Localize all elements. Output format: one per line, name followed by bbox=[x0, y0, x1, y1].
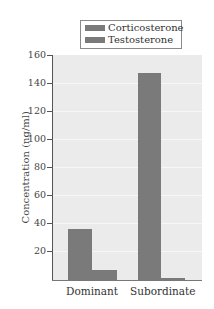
legend-swatch-corticosterone bbox=[85, 25, 105, 31]
x-category-label-dominant: Dominant bbox=[62, 285, 122, 297]
legend: Corticosterone Testosterone bbox=[80, 20, 182, 49]
y-tick bbox=[47, 111, 52, 112]
y-tick bbox=[47, 251, 52, 252]
gridline bbox=[52, 111, 202, 112]
y-axis-label: Concentration (ng/ml) bbox=[20, 114, 31, 224]
gridline bbox=[52, 139, 202, 140]
gridline bbox=[52, 83, 202, 84]
gridline bbox=[52, 223, 202, 224]
y-tick bbox=[47, 55, 52, 56]
bar-dominant-corticosterone bbox=[68, 229, 92, 280]
legend-label: Testosterone bbox=[108, 34, 173, 46]
bar-dominant-testosterone bbox=[92, 270, 117, 280]
y-tick bbox=[47, 139, 52, 140]
y-tick bbox=[47, 83, 52, 84]
legend-item-testosterone: Testosterone bbox=[85, 34, 173, 46]
y-tick bbox=[47, 195, 52, 196]
y-tick bbox=[47, 223, 52, 224]
y-axis bbox=[52, 55, 53, 281]
legend-swatch-testosterone bbox=[85, 37, 105, 43]
legend-label: Corticosterone bbox=[108, 22, 184, 34]
gridline bbox=[52, 167, 202, 168]
gridline bbox=[52, 195, 202, 196]
y-tick-label: 160 bbox=[14, 50, 46, 60]
y-tick-label: 20 bbox=[14, 246, 46, 256]
x-axis bbox=[52, 280, 202, 281]
bar-subordinate-corticosterone bbox=[138, 73, 161, 280]
x-category-label-subordinate: Subordinate bbox=[130, 285, 194, 297]
y-tick-label: 140 bbox=[14, 78, 46, 88]
y-tick bbox=[47, 167, 52, 168]
legend-item-corticosterone: Corticosterone bbox=[85, 22, 184, 34]
